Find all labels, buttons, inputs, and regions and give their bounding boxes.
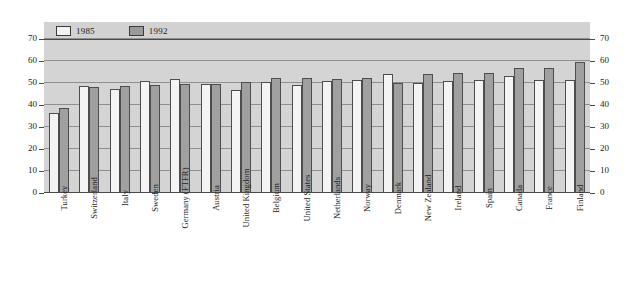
x-axis-label-cell: Denmark bbox=[378, 196, 408, 284]
bar[interactable] bbox=[504, 76, 514, 193]
bar[interactable] bbox=[322, 81, 332, 193]
bar[interactable] bbox=[413, 83, 423, 193]
bar-group bbox=[196, 40, 226, 193]
legend-label: 1985 bbox=[76, 26, 95, 36]
y-tick-label-right-70: 70 bbox=[600, 34, 622, 43]
x-axis-label-cell: Germany (FTFR) bbox=[165, 196, 195, 284]
plot-area bbox=[44, 39, 590, 193]
x-axis-label: Denmark bbox=[393, 182, 403, 214]
bar-group bbox=[347, 40, 377, 193]
bar[interactable] bbox=[292, 85, 302, 193]
legend-item-1992[interactable]: 1992 bbox=[129, 26, 168, 36]
x-axis-label-cell: Spain bbox=[469, 196, 499, 284]
bar[interactable] bbox=[443, 81, 453, 193]
bar-group bbox=[438, 40, 468, 193]
bar[interactable] bbox=[261, 82, 271, 193]
y-tick-label-left-50: 50 bbox=[15, 78, 37, 87]
gridline-70 bbox=[44, 38, 590, 39]
x-axis-label-cell: Netherlands bbox=[317, 196, 347, 284]
bar-group bbox=[408, 40, 438, 193]
x-axis-label-cell: Finland bbox=[560, 196, 590, 284]
y-tick-mark bbox=[590, 193, 595, 194]
x-axis-label: United States bbox=[302, 175, 312, 222]
bar[interactable] bbox=[170, 79, 180, 193]
y-tick-mark bbox=[39, 193, 44, 194]
x-axis-label: New Zealand bbox=[423, 175, 433, 222]
bar[interactable] bbox=[514, 68, 524, 193]
bar-group bbox=[378, 40, 408, 193]
bar[interactable] bbox=[362, 78, 372, 194]
bar[interactable] bbox=[49, 113, 59, 193]
bar[interactable] bbox=[393, 83, 403, 193]
x-axis-label-cell: Italy bbox=[105, 196, 135, 284]
x-axis-label: United Kingdom bbox=[241, 169, 251, 228]
x-axis-label-cell: United Kingdom bbox=[226, 196, 256, 284]
x-axis-label: Switzerland bbox=[89, 177, 99, 219]
bar-group bbox=[287, 40, 317, 193]
x-axis-label: Turkey bbox=[59, 186, 69, 211]
bar[interactable] bbox=[352, 80, 362, 193]
x-axis-label: Austria bbox=[211, 185, 221, 211]
y-tick-label-right-20: 20 bbox=[600, 144, 622, 153]
y-tick-mark bbox=[590, 127, 595, 128]
bar[interactable] bbox=[140, 81, 150, 193]
x-axis-label: Norway bbox=[362, 184, 372, 212]
x-axis-label: Ireland bbox=[453, 186, 463, 211]
chart-legend: 19851992 bbox=[44, 22, 590, 39]
bar[interactable] bbox=[201, 84, 211, 193]
bar[interactable] bbox=[79, 86, 89, 193]
bar[interactable] bbox=[120, 86, 130, 193]
y-tick-label-right-60: 60 bbox=[600, 56, 622, 65]
bar-group bbox=[135, 40, 165, 193]
x-axis-label: Germany (FTFR) bbox=[180, 167, 190, 228]
x-axis-label: Spain bbox=[484, 188, 494, 208]
bar[interactable] bbox=[231, 90, 241, 193]
y-tick-mark bbox=[590, 171, 595, 172]
x-axis-label: Italy bbox=[120, 190, 130, 206]
bar[interactable] bbox=[150, 85, 160, 193]
legend-label: 1992 bbox=[149, 26, 168, 36]
y-tick-mark bbox=[590, 149, 595, 150]
y-tick-mark bbox=[590, 61, 595, 62]
bar[interactable] bbox=[453, 73, 463, 193]
y-tick-label-left-70: 70 bbox=[15, 34, 37, 43]
y-tick-label-left-0: 0 bbox=[15, 188, 37, 197]
bar[interactable] bbox=[534, 80, 544, 193]
x-axis-label-cell: United States bbox=[287, 196, 317, 284]
x-axis-label: Sweden bbox=[150, 184, 160, 212]
y-tick-label-right-0: 0 bbox=[600, 188, 622, 197]
x-axis-label: Canada bbox=[514, 185, 524, 211]
x-axis-label-cell: Ireland bbox=[438, 196, 468, 284]
y-tick-label-right-40: 40 bbox=[600, 100, 622, 109]
bar[interactable] bbox=[110, 89, 120, 194]
bar-group bbox=[44, 40, 74, 193]
bar[interactable] bbox=[544, 68, 554, 193]
bar[interactable] bbox=[565, 80, 575, 193]
x-axis-label-cell: Norway bbox=[347, 196, 377, 284]
y-tick-label-left-40: 40 bbox=[15, 100, 37, 109]
y-tick-label-left-20: 20 bbox=[15, 144, 37, 153]
x-axis-label-cell: France bbox=[529, 196, 559, 284]
bar[interactable] bbox=[332, 79, 342, 193]
bar-group bbox=[256, 40, 286, 193]
y-tick-label-left-30: 30 bbox=[15, 122, 37, 131]
y-tick-mark bbox=[590, 105, 595, 106]
bar[interactable] bbox=[271, 78, 281, 194]
bar[interactable] bbox=[211, 84, 221, 193]
bar[interactable] bbox=[575, 62, 585, 193]
x-axis-label: Belgium bbox=[271, 183, 281, 213]
x-axis-label-cell: Turkey bbox=[44, 196, 74, 284]
bar-group bbox=[105, 40, 135, 193]
bar[interactable] bbox=[474, 80, 484, 193]
bar[interactable] bbox=[484, 73, 494, 193]
y-tick-label-left-60: 60 bbox=[15, 56, 37, 65]
bar[interactable] bbox=[383, 74, 393, 193]
legend-swatch-1992-icon bbox=[129, 26, 144, 36]
x-axis-label-cell: Sweden bbox=[135, 196, 165, 284]
legend-item-1985[interactable]: 1985 bbox=[56, 26, 95, 36]
bar[interactable] bbox=[59, 108, 69, 193]
bar-group bbox=[560, 40, 590, 193]
x-axis-label: Netherlands bbox=[332, 177, 342, 219]
bar-group bbox=[529, 40, 559, 193]
y-tick-label-left-10: 10 bbox=[15, 166, 37, 175]
